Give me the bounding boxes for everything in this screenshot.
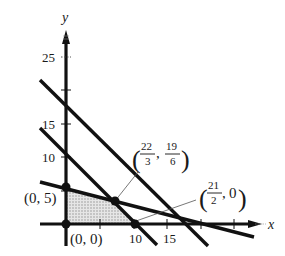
svg-text:21: 21 — [208, 179, 219, 191]
vertex-dot-intersection — [111, 197, 120, 206]
svg-text:): ) — [181, 145, 190, 174]
svg-text:22: 22 — [141, 140, 152, 152]
vertex-label-intersection: ( 22 3 , 19 6 ) — [132, 140, 190, 174]
svg-text:,: , — [156, 145, 160, 161]
y-tick-label-25: 25 — [42, 50, 55, 65]
vertex-label-0-5: (0, 5) — [24, 190, 57, 207]
svg-text:): ) — [238, 184, 247, 213]
svg-text:6: 6 — [170, 155, 176, 167]
vertex-label-0-0: (0, 0) — [70, 231, 103, 248]
vertex-dot-0-5 — [62, 183, 71, 192]
leader-line-intersection — [115, 172, 138, 201]
vertex-label-x-intercept: ( 21 2 , 0 ) — [199, 179, 247, 213]
svg-text:(: ( — [132, 145, 141, 174]
y-tick-label-10: 10 — [42, 150, 55, 165]
vertex-dot-0-0 — [62, 220, 71, 229]
y-tick-label-15: 15 — [42, 117, 55, 132]
svg-text:(: ( — [199, 184, 208, 213]
x-tick-label-10: 10 — [129, 231, 142, 246]
lp-graph: y x 25 15 10 10 15 (0, 5) (0, 0) ( 22 3 … — [0, 0, 285, 256]
y-axis-arrow-icon — [62, 30, 70, 44]
y-axis-label: y — [60, 10, 69, 25]
x-tick-label-15: 15 — [163, 231, 176, 246]
svg-text:0: 0 — [229, 185, 237, 201]
x-axis-label: x — [267, 217, 275, 232]
vertex-dot-x-intercept — [131, 220, 140, 229]
svg-text:3: 3 — [145, 155, 151, 167]
svg-text:19: 19 — [166, 140, 178, 152]
svg-text:2: 2 — [211, 194, 217, 206]
svg-text:,: , — [222, 185, 226, 201]
